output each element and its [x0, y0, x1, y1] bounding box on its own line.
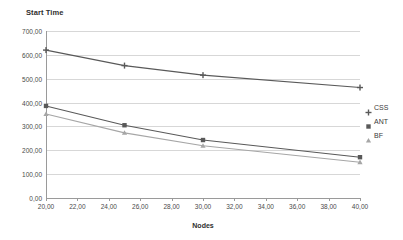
square-marker	[122, 123, 126, 127]
square-marker	[358, 155, 362, 159]
x-tick-mark	[329, 198, 330, 201]
chart-container: Start Time 0,00100,00200,00300,00400,005…	[0, 0, 403, 240]
x-tick-label: 32,00	[226, 203, 242, 210]
x-tick-label: 22,00	[69, 203, 85, 210]
legend-item-bf[interactable]: BF	[364, 128, 403, 142]
y-tick-label: 400,00	[22, 99, 42, 106]
x-tick-mark	[46, 198, 47, 201]
series-line-css	[46, 50, 360, 87]
x-tick-mark	[203, 198, 204, 201]
plus-marker	[200, 72, 206, 78]
x-tick-mark	[172, 198, 173, 201]
series-line-ant	[46, 106, 360, 157]
plus-icon	[364, 103, 373, 112]
x-tick-mark	[234, 198, 235, 201]
triangle-marker	[43, 111, 48, 116]
x-tick-mark	[297, 198, 298, 201]
x-tick-label: 24,00	[101, 203, 117, 210]
plus-marker	[357, 85, 363, 91]
plus-marker	[366, 109, 372, 115]
x-tick-label: 28,00	[163, 203, 179, 210]
square-marker	[201, 138, 205, 142]
plus-marker	[122, 63, 128, 69]
square-icon	[364, 117, 373, 126]
y-tick-label: 500,00	[22, 75, 42, 82]
plus-marker	[43, 47, 49, 53]
y-tick-label: 300,00	[22, 123, 42, 130]
legend-label: BF	[374, 132, 383, 139]
x-tick-label: 20,00	[38, 203, 54, 210]
x-tick-mark	[140, 198, 141, 201]
x-tick-mark	[266, 198, 267, 201]
x-tick-label: 26,00	[132, 203, 148, 210]
legend-label: ANT	[374, 118, 388, 125]
legend-label: CSS	[374, 104, 388, 111]
x-tick-label: 38,00	[320, 203, 336, 210]
x-tick-mark	[109, 198, 110, 201]
x-tick-mark	[360, 198, 361, 201]
x-axis-title: Nodes	[46, 222, 360, 229]
square-marker	[366, 124, 370, 128]
y-tick-label: 100,00	[22, 171, 42, 178]
legend-item-ant[interactable]: ANT	[364, 114, 403, 128]
x-tick-label: 30,00	[195, 203, 211, 210]
chart-legend: CSSANTBF	[364, 100, 403, 142]
y-tick-label: 700,00	[22, 28, 42, 35]
x-tick-label: 40,00	[352, 203, 368, 210]
y-axis-tick-labels: 0,00100,00200,00300,00400,00500,00600,00…	[0, 0, 42, 240]
legend-item-css[interactable]: CSS	[364, 100, 403, 114]
x-tick-label: 34,00	[258, 203, 274, 210]
y-tick-label: 0,00	[29, 195, 42, 202]
triangle-marker	[366, 137, 371, 142]
square-marker	[44, 104, 48, 108]
x-tick-mark	[77, 198, 78, 201]
y-tick-label: 600,00	[22, 51, 42, 58]
triangle-icon	[364, 131, 373, 140]
series-lines	[46, 31, 360, 198]
y-tick-label: 200,00	[22, 147, 42, 154]
x-tick-label: 36,00	[289, 203, 305, 210]
